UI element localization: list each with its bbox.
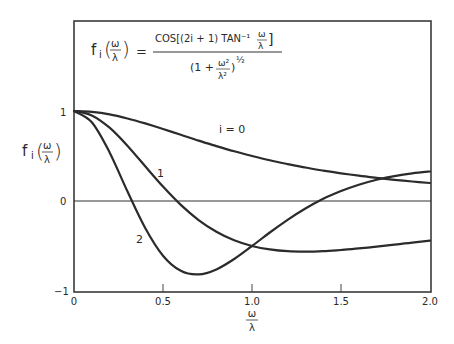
curve-label-i0: i = 0 [219,123,245,136]
curve-label-i1: 1 [157,167,164,180]
svg-text:i: i [31,150,34,161]
svg-text:1: 1 [60,107,66,118]
svg-text:): ) [122,37,130,61]
svg-text:]: ] [268,31,273,47]
svg-text:½: ½ [236,55,245,65]
svg-text:−1: −1 [54,286,69,297]
svg-text:ω: ω [248,308,256,319]
svg-text:ω: ω [111,38,119,49]
formula: f i ( ω λ ) = COS[(2i + 1) TAN⁻¹ ω λ ] (… [91,29,282,81]
y-tick-labels: 1 0 −1 [54,107,69,297]
svg-text:λ²: λ² [218,71,227,81]
svg-text:0: 0 [60,196,66,207]
formula-denominator: (1 + [190,61,214,74]
svg-text:): ) [54,139,62,163]
curve-i1 [74,111,430,252]
svg-text:1.5: 1.5 [333,296,349,307]
curve-label-i2: 2 [136,233,143,246]
svg-text:1.0: 1.0 [244,296,260,307]
formula-numerator: COS[(2i + 1) TAN⁻¹ [155,33,250,44]
svg-text:=: = [136,44,147,59]
x-tick-labels: 0 0.5 1.0 1.5 2.0 [71,296,438,307]
svg-text:ω: ω [258,29,266,39]
svg-text:0.5: 0.5 [155,296,171,307]
svg-text:2.0: 2.0 [422,296,438,307]
formula-f: f [91,41,97,59]
svg-text:λ: λ [258,41,264,51]
svg-text:λ: λ [112,52,118,63]
svg-text:f: f [22,142,28,160]
curve-i2 [74,111,430,274]
y-axis-label: f i ( ω λ ) [22,139,62,165]
x-axis-label: ω λ [246,308,258,333]
svg-text:): ) [231,61,235,74]
svg-text:ω²: ω² [218,58,230,68]
svg-text:ω: ω [43,140,51,151]
svg-text:λ: λ [44,154,50,165]
svg-text:0: 0 [71,296,77,307]
curves [74,111,430,274]
svg-text:λ: λ [249,322,255,333]
chart: f i ( ω λ ) = COS[(2i + 1) TAN⁻¹ ω λ ] (… [0,0,454,344]
x-ticks [163,284,341,292]
formula-i: i [99,49,102,60]
